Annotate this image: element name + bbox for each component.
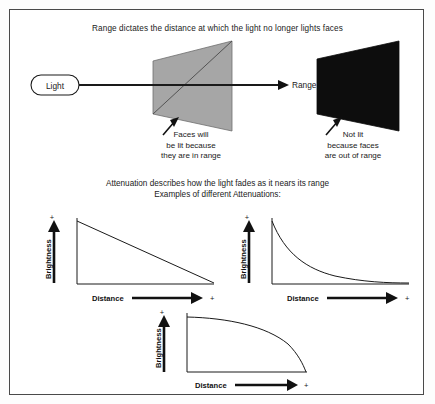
caption-lit-faces: Faces will be lit because they are in ra… (131, 130, 251, 162)
beam-arrow-icon (278, 80, 289, 90)
chart-plateau-cutoff-curve (187, 317, 306, 372)
caption-unlit-faces: Not lit because faces are out of range (293, 130, 413, 162)
attenuation-header-line2: Examples of different Attenuations: (0, 190, 435, 199)
light-source-label: Light (46, 81, 65, 91)
chart-inverse-square-curve (272, 221, 409, 283)
attenuation-header-line1: Attenuation describes how the light fade… (0, 178, 435, 189)
chart-plateau-cutoff-x-plus: + (304, 381, 309, 390)
chart-plateau-cutoff-xlabel: Distance (195, 381, 227, 390)
chart-linear: + Brightness Distance + (20, 206, 220, 316)
chart-linear-curve (77, 221, 214, 283)
chart-inverse-square-ylabel: Brightness (239, 239, 248, 279)
chart-inverse-square-x-arrow-icon (386, 292, 398, 304)
chart-plateau-cutoff: + Brightness Distance + (120, 302, 340, 404)
chart-inverse-square-x-plus: + (405, 294, 410, 303)
range-label: Range (292, 80, 317, 90)
chart-linear-xlabel: Distance (92, 294, 124, 303)
diagram-frame: Range dictates the distance at which the… (9, 9, 424, 395)
chart-plateau-cutoff-ylabel: Brightness (154, 328, 163, 368)
unlit-face-quad (317, 41, 399, 131)
chart-plateau-cutoff-x-arrow-icon (287, 379, 298, 391)
chart-inverse-square: + Brightness Distance + (215, 206, 415, 316)
chart-linear-ylabel: Brightness (44, 239, 53, 279)
